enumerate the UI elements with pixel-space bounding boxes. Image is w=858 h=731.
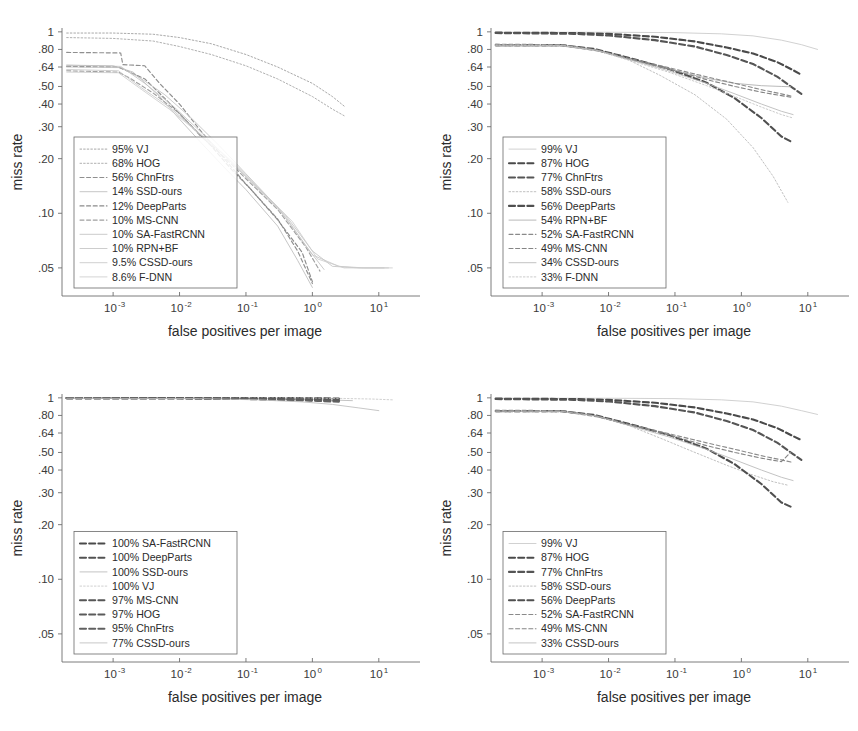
x-tick-mantissa: 10 — [370, 668, 383, 680]
y-tick-label: .40 — [38, 98, 54, 110]
y-tick-label: 1 — [48, 26, 54, 38]
legend-label: 56% DeepParts — [541, 594, 615, 606]
x-ticks-group: 10-310-210-1100101 — [104, 658, 389, 680]
x-tick-exponent: 0 — [317, 300, 322, 309]
x-tick-mantissa: 10 — [171, 302, 184, 314]
legend-label: 99% VJ — [541, 143, 578, 155]
x-axis-title: false positives per image — [597, 323, 751, 339]
curve-ssd-ours — [496, 411, 788, 485]
y-axis-title: miss rate — [438, 133, 454, 190]
x-tick-label: 10-3 — [533, 300, 555, 314]
legend-label: 100% DeepParts — [112, 551, 192, 563]
curve-vj — [67, 33, 344, 106]
y-axis-title: miss rate — [438, 499, 454, 556]
legend-label: 56% DeepParts — [541, 200, 615, 212]
y-tick-label: .80 — [467, 43, 483, 55]
x-tick-mantissa: 10 — [171, 668, 184, 680]
legend-label: 34% CSSD-ours — [541, 256, 619, 268]
y-tick-label: .05 — [467, 628, 483, 640]
x-tick-mantissa: 10 — [533, 302, 546, 314]
legend-label: 77% ChnFtrs — [541, 566, 603, 578]
plot-panel-top-right: 1.80.64.50.40.30.20.10.0510-310-210-1100… — [429, 0, 858, 365]
x-tick-mantissa: 10 — [303, 302, 316, 314]
y-tick-label: .64 — [38, 61, 55, 73]
y-tick-label: .30 — [38, 121, 54, 133]
legend-label: 14% SSD-ours — [112, 185, 182, 197]
plot-panel-tl: 1.80.64.50.40.30.20.10.0510-310-210-1100… — [0, 0, 429, 365]
x-tick-label: 101 — [370, 300, 389, 314]
x-tick-label: 10-2 — [600, 666, 622, 680]
y-tick-label: .64 — [467, 427, 484, 439]
y-tick-label: .20 — [38, 519, 54, 531]
y-axis-title: miss rate — [9, 499, 25, 556]
x-tick-exponent: -3 — [118, 666, 126, 675]
x-axis-title: false positives per image — [597, 689, 751, 705]
y-tick-label: .50 — [38, 80, 54, 92]
x-tick-exponent: -1 — [251, 300, 259, 309]
legend-label: 49% MS-CNN — [541, 622, 608, 634]
x-tick-mantissa: 10 — [666, 668, 679, 680]
y-tick-label: .50 — [38, 446, 54, 458]
legend-label: 33% CSSD-ours — [541, 637, 619, 649]
legend-label: 97% MS-CNN — [112, 594, 179, 606]
curve-f-dnn — [496, 45, 793, 118]
plot-panel-bottom-right: 1.80.64.50.40.30.20.10.0510-310-210-1100… — [429, 366, 858, 731]
y-tick-label: .30 — [467, 121, 483, 133]
x-tick-mantissa: 10 — [237, 302, 250, 314]
y-ticks-group: 1.80.64.50.40.30.20.10.05 — [467, 26, 491, 274]
legend-label: 49% MS-CNN — [541, 242, 608, 254]
x-tick-exponent: 0 — [746, 300, 751, 309]
x-tick-mantissa: 10 — [370, 302, 383, 314]
x-tick-exponent: -2 — [185, 666, 193, 675]
y-tick-label: 1 — [477, 392, 483, 404]
x-tick-label: 100 — [732, 300, 751, 314]
legend-label: 100% SA-FastRCNN — [112, 537, 211, 549]
curves-group — [67, 398, 393, 411]
x-tick-exponent: 1 — [813, 300, 818, 309]
legend-label: 87% HOG — [541, 157, 589, 169]
plot-panel-bl: 1.80.64.50.40.30.20.10.0510-310-210-1100… — [0, 366, 429, 731]
legend-label: 10% RPN+BF — [112, 242, 179, 254]
legend-label: 8.6% F-DNN — [112, 271, 172, 283]
x-tick-mantissa: 10 — [303, 668, 316, 680]
legend-label: 52% SA-FastRCNN — [541, 228, 634, 240]
y-tick-label: .05 — [467, 262, 483, 274]
x-tick-label: 10-2 — [600, 300, 622, 314]
y-tick-label: .80 — [38, 43, 54, 55]
x-tick-exponent: -2 — [614, 666, 622, 675]
legend: 99% VJ87% HOG77% ChnFtrs58% SSD-ours56% … — [503, 531, 666, 654]
x-tick-exponent: -3 — [547, 666, 555, 675]
legend-label: 10% MS-CNN — [112, 214, 179, 226]
x-axis-title: false positives per image — [168, 323, 322, 339]
x-ticks-group: 10-310-210-1100101 — [104, 292, 389, 314]
x-tick-mantissa: 10 — [533, 668, 546, 680]
legend-label: 12% DeepParts — [112, 200, 186, 212]
x-tick-exponent: 1 — [384, 300, 389, 309]
y-tick-label: .10 — [467, 207, 483, 219]
x-tick-label: 10-1 — [666, 300, 688, 314]
legend-label: 77% ChnFtrs — [541, 171, 603, 183]
x-tick-label: 10-1 — [237, 666, 259, 680]
legend-label: 9.5% CSSD-ours — [112, 256, 193, 268]
legend-label: 100% SSD-ours — [112, 566, 188, 578]
y-tick-label: .80 — [467, 409, 483, 421]
x-tick-mantissa: 10 — [104, 668, 117, 680]
x-tick-mantissa: 10 — [732, 302, 745, 314]
y-tick-label: .05 — [38, 262, 54, 274]
legend-label: 97% HOG — [112, 608, 160, 620]
x-tick-mantissa: 10 — [237, 668, 250, 680]
y-tick-label: .40 — [38, 464, 54, 476]
plot-panel-br: 1.80.64.50.40.30.20.10.0510-310-210-1100… — [429, 366, 858, 731]
plot-panel-tr: 1.80.64.50.40.30.20.10.0510-310-210-1100… — [429, 0, 858, 365]
x-tick-label: 10-2 — [171, 300, 193, 314]
curve-deepparts — [496, 411, 793, 508]
x-tick-exponent: -2 — [614, 300, 622, 309]
y-tick-label: .50 — [467, 80, 483, 92]
y-tick-label: .30 — [467, 487, 483, 499]
legend-label: 68% HOG — [112, 157, 160, 169]
y-tick-label: .40 — [467, 98, 483, 110]
x-tick-mantissa: 10 — [104, 302, 117, 314]
x-tick-label: 10-1 — [237, 300, 259, 314]
legend-label: 100% VJ — [112, 580, 154, 592]
x-tick-label: 10-3 — [104, 300, 126, 314]
